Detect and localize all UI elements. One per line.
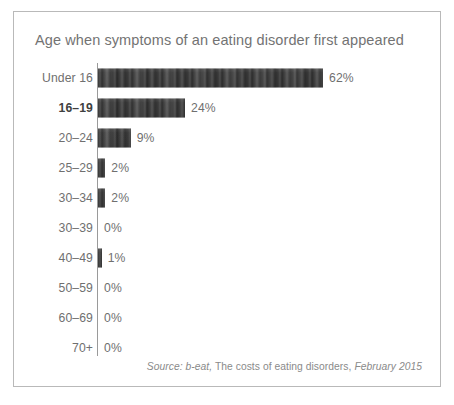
bar-row: 40–491% [14,243,440,273]
page-title: Age when symptoms of an eating disorder … [35,32,404,48]
value-label: 0% [104,281,122,295]
bar [98,249,102,268]
bar [98,129,131,148]
value-label: 24% [191,101,216,115]
category-label: 20–24 [59,131,93,145]
value-label: 9% [137,131,155,145]
bar-row: 30–342% [14,183,440,213]
category-label: 25–29 [59,161,93,175]
value-label: 0% [104,341,122,355]
bar-row: 16–1924% [14,93,440,123]
source-middle: The costs of eating disorders, [212,361,354,372]
category-label: 40–49 [59,251,93,265]
category-label: 50–59 [59,281,93,295]
category-label: Under 16 [42,71,93,85]
category-label: 30–34 [59,191,93,205]
value-label: 1% [108,251,126,265]
bar-row: 20–249% [14,123,440,153]
source-prefix: Source: b-eat, [147,361,212,372]
bar [98,189,105,208]
bar [98,99,185,118]
value-label: 0% [104,221,122,235]
bar [98,159,105,178]
category-label: 70+ [72,341,93,355]
chart-frame: Age when symptoms of an eating disorder … [13,11,441,387]
bar-row: Under 1662% [14,63,440,93]
bar-row: 60–690% [14,303,440,333]
bar-chart-plot-area: Under 1662%16–1924%20–249%25–292%30–342%… [14,63,440,363]
category-label: 30–39 [59,221,93,235]
bar-row: 30–390% [14,213,440,243]
bar-row: 50–590% [14,273,440,303]
value-label: 2% [111,161,129,175]
bar-row: 70+0% [14,333,440,363]
bar [98,69,323,88]
value-label: 2% [111,191,129,205]
bar-row: 25–292% [14,153,440,183]
value-label: 62% [329,71,354,85]
source-suffix: February 2015 [354,361,422,372]
category-label: 60–69 [59,311,93,325]
source-note: Source: b-eat, The costs of eating disor… [147,361,422,372]
category-label: 16–19 [59,101,93,115]
value-label: 0% [104,311,122,325]
